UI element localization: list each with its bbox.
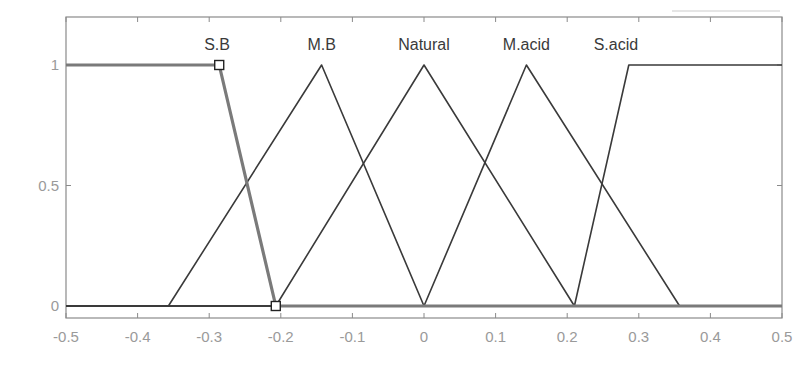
x-tick-label: 0.1 <box>485 328 506 345</box>
plot-frame <box>66 17 782 318</box>
x-tick-label: -0.4 <box>125 328 151 345</box>
y-tick-label: 0 <box>51 297 59 314</box>
y-tick-label: 1 <box>51 56 59 73</box>
mf-labels: M.BNaturalM.acidS.acidS.B <box>204 36 638 53</box>
drag-handle[interactable] <box>271 302 280 311</box>
membership-function-plot: -0.5-0.4-0.3-0.2-0.100.10.20.30.40.500.5… <box>0 0 801 369</box>
x-tick-label: -0.5 <box>53 328 79 345</box>
axes: -0.5-0.4-0.3-0.2-0.100.10.20.30.40.500.5… <box>38 11 792 345</box>
mf-label-natural: Natural <box>398 36 450 53</box>
drag-handle[interactable] <box>215 61 224 70</box>
mf-curve-s-acid[interactable] <box>66 65 782 306</box>
mf-label-m-b: M.B <box>307 36 335 53</box>
mf-label-s-b: S.B <box>204 36 230 53</box>
x-tick-label: -0.2 <box>268 328 294 345</box>
mf-curve-s-b[interactable] <box>66 65 782 306</box>
mf-curve-natural[interactable] <box>66 65 782 306</box>
x-tick-label: 0 <box>420 328 428 345</box>
x-tick-label: 0.2 <box>557 328 578 345</box>
x-tick-label: 0.4 <box>700 328 721 345</box>
x-tick-label: -0.3 <box>196 328 222 345</box>
mf-curve-m-acid[interactable] <box>66 65 782 306</box>
membership-functions <box>66 65 782 306</box>
mf-label-s-acid: S.acid <box>594 36 638 53</box>
x-tick-label: 0.3 <box>628 328 649 345</box>
mf-label-m-acid: M.acid <box>503 36 550 53</box>
y-tick-label: 0.5 <box>38 177 59 194</box>
mf-curve-m-b[interactable] <box>66 65 782 306</box>
x-tick-label: 0.5 <box>772 328 793 345</box>
x-tick-label: -0.1 <box>339 328 365 345</box>
